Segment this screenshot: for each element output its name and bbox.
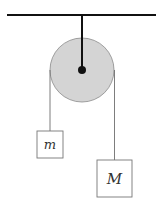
atwood-machine-diagram: m M [0,0,160,207]
block-large-mass: M [97,160,132,197]
block-small-mass: m [37,131,63,158]
block-large-label: M [106,170,123,188]
pulley-axle [78,66,86,74]
block-small-label: m [44,137,56,152]
